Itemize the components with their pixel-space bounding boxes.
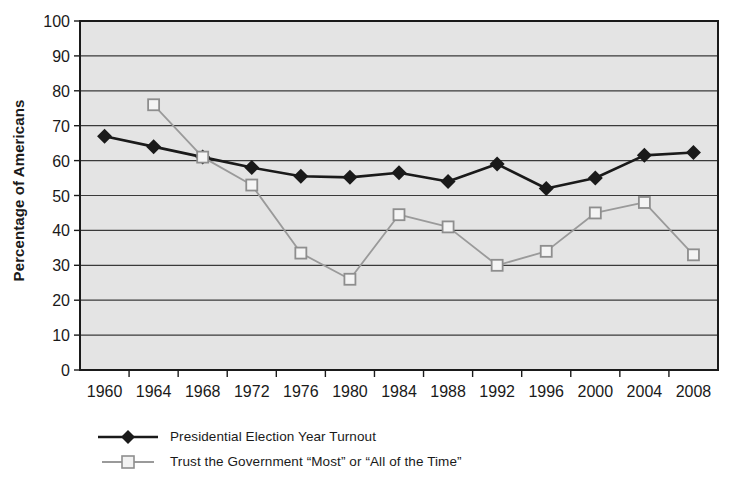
x-axis-tick-label: 1980	[332, 383, 368, 400]
y-axis-tick-label: 30	[52, 257, 70, 274]
x-axis-tick-label: 2004	[627, 383, 663, 400]
chart-legend: Presidential Election Year Turnout Trust…	[96, 424, 696, 474]
y-axis-tick-label: 70	[52, 118, 70, 135]
legend-item-turnout: Presidential Election Year Turnout	[96, 424, 696, 449]
data-point-marker	[541, 246, 552, 257]
x-axis-tick-label: 1968	[185, 383, 221, 400]
data-point-marker	[394, 209, 405, 220]
y-axis-tick-label: 90	[52, 48, 70, 65]
legend-key-open-square-icon	[96, 452, 160, 472]
data-point-marker	[688, 249, 699, 260]
y-axis-tick-label: 50	[52, 188, 70, 205]
x-axis-tick-label: 1988	[430, 383, 466, 400]
data-point-marker	[148, 99, 159, 110]
y-axis-tick-label: 40	[52, 222, 70, 239]
data-point-marker	[443, 221, 454, 232]
data-point-marker	[197, 152, 208, 163]
data-point-marker	[492, 260, 503, 271]
y-axis-tick-label: 0	[61, 362, 70, 379]
data-point-marker	[639, 197, 650, 208]
y-axis-tick-label: 100	[43, 13, 70, 30]
x-axis-tick-label: 1960	[87, 383, 123, 400]
chart-figure: Percentage of Americans 0102030405060708…	[0, 0, 739, 494]
legend-key-filled-diamond-icon	[96, 427, 160, 447]
y-axis-tick-label: 80	[52, 83, 70, 100]
data-point-marker	[246, 180, 257, 191]
y-axis-tick-label: 10	[52, 327, 70, 344]
data-point-marker	[344, 274, 355, 285]
x-axis-tick-label: 1976	[283, 383, 319, 400]
x-axis-tick-label: 1984	[381, 383, 417, 400]
data-point-marker	[590, 207, 601, 218]
x-axis-tick-label: 2000	[578, 383, 614, 400]
legend-label-trust: Trust the Government “Most” or “All of t…	[170, 454, 462, 469]
data-point-marker	[295, 248, 306, 259]
x-axis-tick-label: 1972	[234, 383, 270, 400]
x-axis-tick-label: 2008	[676, 383, 712, 400]
legend-item-trust: Trust the Government “Most” or “All of t…	[96, 449, 696, 474]
plot-area: 0102030405060708090100196019641968197219…	[0, 0, 739, 400]
x-axis-tick-label: 1964	[136, 383, 172, 400]
line-chart-svg: 0102030405060708090100196019641968197219…	[0, 0, 739, 400]
y-axis-tick-label: 20	[52, 292, 70, 309]
legend-label-turnout: Presidential Election Year Turnout	[170, 429, 376, 444]
y-axis-tick-label: 60	[52, 153, 70, 170]
x-axis-tick-label: 1996	[528, 383, 564, 400]
x-axis-tick-label: 1992	[479, 383, 515, 400]
